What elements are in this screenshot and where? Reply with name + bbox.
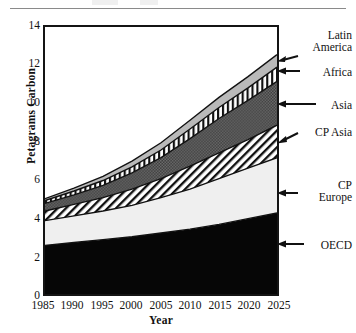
arrow-latin-america — [277, 53, 299, 65]
chart-page: Petagrams Carbon 14 12 10 8 6 4 2 0 — [0, 0, 356, 333]
arrow-oecd — [277, 240, 305, 248]
scan-artifact-left — [92, 0, 118, 5]
x-axis-title: Year — [43, 314, 279, 326]
y-tick-label-14: 14 — [18, 20, 40, 32]
x-tick-label-1985: 1985 — [27, 300, 59, 312]
y-tick-label-8: 8 — [18, 136, 40, 148]
arrow-cp-europe — [277, 189, 299, 197]
header-rule — [10, 8, 346, 9]
y-tick-label-12: 12 — [18, 58, 40, 70]
x-tick-label-2010: 2010 — [174, 300, 206, 312]
x-tick-label-2015: 2015 — [204, 300, 236, 312]
y-tick-label-4: 4 — [18, 213, 40, 225]
annotation-latin-america-line2: America — [278, 42, 352, 54]
y-tick-label-6: 6 — [18, 174, 40, 186]
x-tick-label-2000: 2000 — [115, 300, 147, 312]
x-tick-label-2020: 2020 — [233, 300, 265, 312]
annotation-latin-america: Latin America — [278, 30, 352, 53]
stacked-area-plot — [45, 27, 277, 294]
plot-area — [43, 25, 279, 296]
y-tick-label-10: 10 — [18, 97, 40, 109]
x-tick-label-1995: 1995 — [86, 300, 118, 312]
annotation-latin-america-line1: Latin — [278, 30, 352, 42]
scan-artifact-right — [140, 0, 158, 5]
x-tick-label-2005: 2005 — [145, 300, 177, 312]
arrow-asia — [277, 100, 317, 108]
y-axis-labels: 14 12 10 8 6 4 2 0 — [16, 0, 40, 333]
x-tick-label-1990: 1990 — [56, 300, 88, 312]
arrow-cp-asia — [277, 131, 299, 145]
y-tick-label-2: 2 — [18, 252, 40, 264]
arrow-africa — [277, 67, 301, 75]
x-tick-label-2025: 2025 — [263, 300, 295, 312]
